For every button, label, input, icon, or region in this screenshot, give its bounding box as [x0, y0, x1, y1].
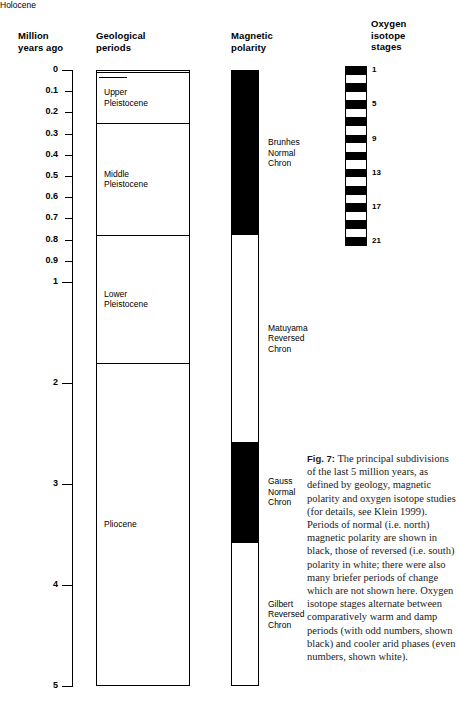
axis-tick	[65, 112, 73, 113]
column-header-age: Million years ago	[18, 30, 63, 53]
axis-tick-label: 0.6	[16, 191, 58, 201]
geological-period-label: Lower Pleistocene	[104, 289, 148, 310]
axis-tick-label: 0.2	[16, 106, 58, 116]
holocene-leader-line	[99, 77, 127, 78]
axis-tick-label: 0.1	[16, 85, 58, 95]
geological-period-divider	[96, 235, 190, 236]
axis-tick	[65, 218, 73, 219]
axis-tick	[65, 134, 73, 135]
figure-caption: Fig. 7: The principal subdivisions of th…	[307, 452, 457, 663]
axis-tick	[65, 91, 73, 92]
oxygen-isotope-stage-label: 21	[372, 236, 381, 245]
axis-tick	[65, 240, 73, 241]
axis-tick	[65, 155, 73, 156]
magnetic-polarity-column	[231, 70, 259, 686]
age-axis-line	[72, 70, 73, 686]
oxygen-isotope-stage-label: 13	[372, 168, 381, 177]
axis-tick	[62, 686, 73, 687]
magnetic-chron-label: Gilbert Reversed Chron	[268, 599, 304, 631]
oxygen-isotope-stage-label: 5	[372, 99, 376, 108]
axis-tick-label: 0	[16, 64, 58, 74]
axis-tick-label: 4	[16, 579, 58, 589]
axis-tick-label: 5	[16, 680, 58, 690]
axis-tick	[62, 282, 73, 283]
axis-tick-label: 3	[16, 478, 58, 488]
geological-period-divider	[96, 123, 190, 124]
axis-tick	[65, 176, 73, 177]
axis-tick-label: 1	[16, 276, 58, 286]
oxygen-isotope-stage-label: 9	[372, 134, 376, 143]
column-header-magnetic: Magnetic polarity	[231, 30, 273, 53]
geological-period-label: Pliocene	[104, 519, 137, 530]
geological-period-divider	[96, 72, 190, 73]
magnetic-chron-label: Matuyama Reversed Chron	[268, 323, 308, 355]
axis-tick	[62, 585, 73, 586]
axis-tick-label: 2	[16, 377, 58, 387]
geological-period-label: Middle Pleistocene	[104, 169, 148, 190]
column-header-geological: Geological periods	[96, 30, 146, 53]
geological-period-label: Upper Pleistocene	[104, 87, 148, 108]
axis-tick	[65, 197, 73, 198]
axis-tick	[62, 383, 73, 384]
axis-tick	[62, 70, 73, 71]
column-header-oxygen: Oxygen isotope stages	[371, 18, 406, 53]
figure-number: Fig. 7:	[307, 453, 335, 464]
axis-tick-label: 0.8	[16, 234, 58, 244]
geological-period-divider	[96, 363, 190, 364]
oxygen-isotope-stage-label: 17	[372, 202, 381, 211]
figure-geological-timescale: Million years ago Geological periods Mag…	[0, 0, 459, 725]
axis-tick-label: 0.3	[16, 128, 58, 138]
axis-tick-label: 0.7	[16, 212, 58, 222]
figure-caption-text: The principal subdivisions of the last 5…	[307, 453, 456, 662]
magnetic-chron-label: Gauss Normal Chron	[268, 476, 295, 508]
axis-tick-label: 0.9	[16, 255, 58, 265]
axis-tick	[62, 484, 73, 485]
axis-tick	[65, 261, 73, 262]
top-cropped-text	[0, 0, 459, 9]
geological-periods-column	[96, 70, 190, 686]
axis-tick-label: 0.4	[16, 149, 58, 159]
axis-tick-label: 0.5	[16, 170, 58, 180]
oxygen-isotope-column	[345, 66, 367, 246]
oxygen-isotope-stage-label: 1	[372, 65, 376, 74]
magnetic-chron-label: Brunhes Normal Chron	[268, 137, 300, 169]
